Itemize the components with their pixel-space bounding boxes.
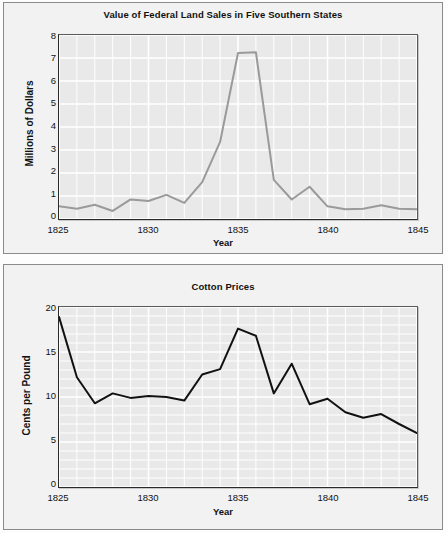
chart-panel-land-sales: Value of Federal Land Sales in Five Sout… <box>3 2 443 254</box>
x-tick-cotton-1835: 1835 <box>218 492 258 503</box>
y-tick-land-1: 1 <box>30 188 56 199</box>
x-axis-label-cotton-prices: Year <box>4 506 442 517</box>
x-tick-cotton-1830: 1830 <box>128 492 168 503</box>
figure-page: Value of Federal Land Sales in Five Sout… <box>0 0 448 533</box>
x-tick-land-1845: 1845 <box>398 224 438 235</box>
plot-svg-cotton-prices <box>59 307 417 487</box>
x-tick-cotton-1825: 1825 <box>38 492 78 503</box>
gridlines-land-sales <box>59 35 417 219</box>
y-tick-land-5: 5 <box>30 97 56 108</box>
y-tick-cotton-15: 15 <box>30 346 56 357</box>
plot-area-land-sales <box>58 34 418 220</box>
x-tick-land-1825: 1825 <box>38 224 78 235</box>
y-tick-cotton-5: 5 <box>30 434 56 445</box>
plot-area-cotton-prices <box>58 306 418 488</box>
y-tick-land-6: 6 <box>30 75 56 86</box>
y-tick-land-8: 8 <box>30 30 56 41</box>
x-tick-land-1835: 1835 <box>218 224 258 235</box>
y-tick-land-7: 7 <box>30 52 56 63</box>
y-tick-land-3: 3 <box>30 143 56 154</box>
chart-panel-cotton-prices: Cotton Prices Cents per Pound 20 15 10 5… <box>3 264 443 530</box>
gridlines-cotton-prices <box>59 307 417 487</box>
x-tick-land-1830: 1830 <box>128 224 168 235</box>
x-tick-land-1840: 1840 <box>308 224 348 235</box>
chart-title-land-sales: Value of Federal Land Sales in Five Sout… <box>4 9 442 20</box>
x-tick-cotton-1840: 1840 <box>308 492 348 503</box>
y-tick-cotton-10: 10 <box>30 390 56 401</box>
y-tick-cotton-20: 20 <box>30 302 56 313</box>
y-tick-cotton-0: 0 <box>30 478 56 489</box>
y-tick-land-0: 0 <box>30 210 56 221</box>
plot-svg-land-sales <box>59 35 417 219</box>
x-tick-cotton-1845: 1845 <box>398 492 438 503</box>
y-tick-land-4: 4 <box>30 120 56 131</box>
x-axis-label-land-sales: Year <box>4 237 442 248</box>
y-tick-land-2: 2 <box>30 165 56 176</box>
chart-title-cotton-prices: Cotton Prices <box>4 281 442 292</box>
